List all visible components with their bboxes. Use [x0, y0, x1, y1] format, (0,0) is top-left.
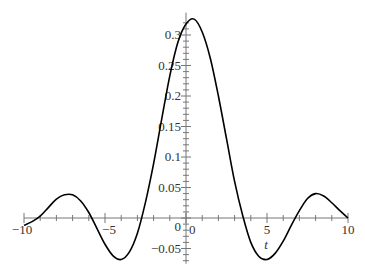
line-chart: −10−50510−0.0500.050.10.150.20.250.3 t — [0, 0, 365, 278]
y-tick-label: 0.1 — [165, 149, 181, 164]
y-tick-label: 0.25 — [158, 58, 181, 73]
y-tick-label: 0 — [175, 219, 182, 234]
x-tick-label: 10 — [342, 222, 355, 237]
x-tick-label: −10 — [12, 222, 32, 237]
y-tick-label: 0.05 — [158, 180, 181, 195]
axes — [24, 13, 348, 264]
x-axis-label: t — [264, 237, 268, 252]
x-tick-label: −5 — [102, 222, 116, 237]
x-tick-label: 0 — [189, 222, 196, 237]
y-tick-label: −0.05 — [151, 241, 181, 256]
tick-labels: −10−50510−0.0500.050.10.150.20.250.3 — [12, 27, 355, 256]
x-tick-label: 5 — [264, 222, 271, 237]
